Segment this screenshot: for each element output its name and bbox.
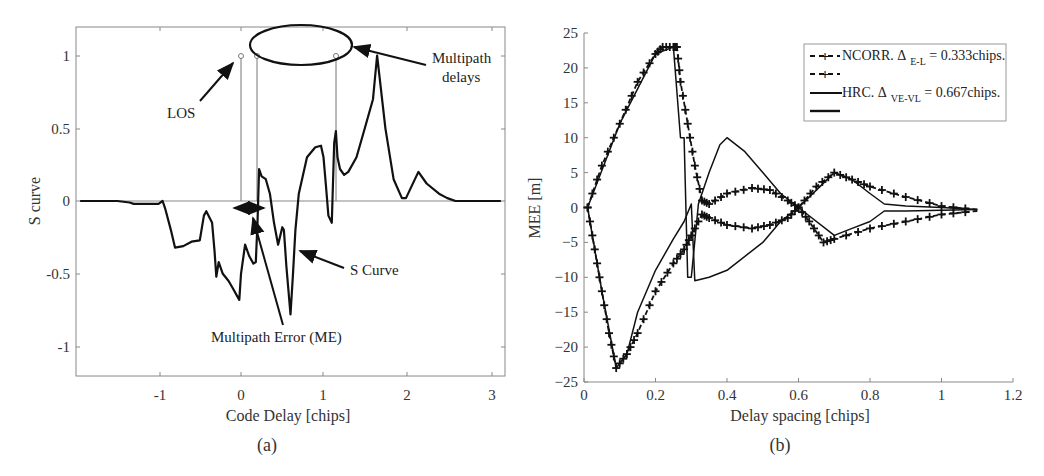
- ytick-label: 0: [63, 193, 71, 209]
- xtick-label: 0: [237, 387, 245, 403]
- caption-a: (a): [257, 435, 277, 456]
- plus-marker: [902, 193, 910, 201]
- svg-text:+: +: [821, 66, 830, 82]
- plus-marker: [640, 315, 648, 323]
- xtick-label: 3: [488, 387, 496, 403]
- plus-marker: [652, 287, 660, 295]
- los-arrow: [200, 63, 233, 101]
- hrc-line: [588, 204, 978, 368]
- ytick-label: 5: [571, 165, 579, 181]
- multipath-delays-arrow: [354, 47, 426, 65]
- plus-marker: [878, 186, 886, 194]
- me-arrow: [253, 218, 283, 325]
- ytick-label: 10: [563, 130, 578, 146]
- ncorr-line: [588, 208, 978, 369]
- xtick-label: 0.4: [718, 387, 737, 403]
- ytick-label: −5: [562, 234, 578, 250]
- ytick-label: -1: [58, 339, 71, 355]
- plus-marker: [914, 215, 922, 223]
- figure: 1 0.5 0 -0.5 -1 -1 0 1 2 3 Code Delay [c…: [0, 0, 1044, 476]
- panel-a: 1 0.5 0 -0.5 -1 -1 0 1 2 3 Code Delay [c…: [26, 25, 505, 456]
- y-axis-label-b: MEE [m]: [526, 178, 543, 239]
- ytick-label: -0.5: [46, 266, 70, 282]
- annotation-multipath-line2: delays: [442, 69, 480, 85]
- plus-marker: [677, 78, 685, 86]
- plus-marker: [760, 222, 768, 230]
- y-axis-label-a: S curve: [26, 177, 43, 225]
- annotation-me: Multipath Error (ME): [211, 329, 342, 346]
- y-ticks-b: 2520151050−5−10−15−20−25: [555, 25, 588, 390]
- ytick-label: 15: [563, 95, 578, 111]
- plus-marker: [854, 228, 862, 236]
- panel-b: 2520151050−5−10−15−20−25 00.20.40.60.811…: [526, 25, 1022, 456]
- plus-marker: [686, 134, 694, 142]
- xtick-label: 0.8: [861, 387, 880, 403]
- plus-marker: [688, 148, 696, 156]
- plus-marker: [938, 210, 946, 218]
- plus-marker: [731, 188, 739, 196]
- plus-marker: [926, 213, 934, 221]
- plus-marker: [646, 301, 654, 309]
- plus-marker: [679, 92, 687, 100]
- plus-marker: [890, 190, 898, 198]
- annotation-multipath: Multipath delays: [432, 50, 495, 85]
- plus-marker: [694, 217, 702, 225]
- plus-marker: [866, 224, 874, 232]
- s-curve-line: [80, 56, 501, 315]
- caption-b: (b): [770, 435, 791, 456]
- svg-text:+: +: [821, 48, 830, 64]
- xtick-label: 1: [319, 387, 327, 403]
- xtick-label: 0.2: [646, 387, 665, 403]
- ytick-label: −10: [555, 269, 578, 285]
- plus-marker: [926, 199, 934, 207]
- legend: + NCORR. ΔE-L = 0.333chips. + HRC. ΔVE-V…: [804, 44, 1006, 121]
- x-axis-label-a: Code Delay [chips]: [226, 407, 350, 425]
- xtick-label: 2: [403, 387, 411, 403]
- annotation-multipath-line1: Multipath: [432, 50, 492, 66]
- multipath-stems: [239, 54, 339, 202]
- ytick-label: 1: [63, 48, 71, 64]
- plus-marker: [754, 223, 762, 231]
- plus-marker: [890, 220, 898, 228]
- plus-marker: [634, 329, 642, 337]
- annotation-s-curve: S Curve: [350, 262, 399, 278]
- ytick-label: 25: [563, 25, 578, 41]
- plus-marker: [914, 196, 922, 204]
- ytick-label: 20: [563, 60, 578, 76]
- ytick-label: 0.5: [51, 121, 70, 137]
- plus-marker: [731, 222, 739, 230]
- plus-marker: [681, 106, 689, 114]
- plus-marker: [740, 186, 748, 194]
- x-axis-label-b: Delay spacing [chips]: [730, 407, 870, 425]
- plus-marker: [740, 223, 748, 231]
- plus-marker: [878, 222, 886, 230]
- xtick-label: 1: [938, 387, 946, 403]
- plus-marker: [748, 224, 756, 232]
- plus-marker: [675, 66, 683, 74]
- multipath-delays-ellipse: [250, 25, 352, 65]
- ytick-label: −25: [555, 374, 578, 390]
- plus-marker: [674, 55, 682, 63]
- plus-marker: [684, 120, 692, 128]
- ytick-label: −20: [555, 339, 578, 355]
- xtick-label: 0.6: [789, 387, 808, 403]
- plus-marker: [902, 217, 910, 225]
- plus-marker: [691, 162, 699, 170]
- plus-marker: [693, 173, 701, 181]
- annotation-los: LOS: [167, 105, 195, 121]
- xtick-label: 1.2: [1004, 387, 1023, 403]
- plus-marker: [938, 202, 946, 210]
- xtick-label: -1: [154, 387, 167, 403]
- ytick-label: 0: [571, 200, 579, 216]
- s-curve-arrow: [300, 251, 344, 268]
- xtick-label: 0: [580, 387, 588, 403]
- ytick-label: −15: [555, 304, 578, 320]
